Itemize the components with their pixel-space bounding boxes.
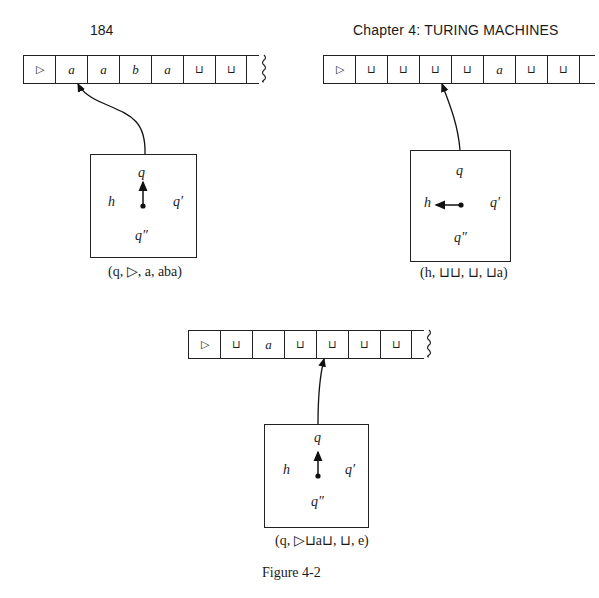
head-pointer-arrow	[78, 84, 145, 154]
head-pointer-arrow	[318, 359, 324, 424]
current-state-dot	[315, 473, 320, 478]
wavy-end-icon	[263, 55, 266, 82]
head-pointer-arrow	[442, 84, 460, 150]
current-state-dot	[140, 203, 145, 208]
wavy-end-icon	[428, 330, 431, 357]
diagram-arrows	[0, 0, 599, 598]
current-state-dot	[458, 202, 463, 207]
